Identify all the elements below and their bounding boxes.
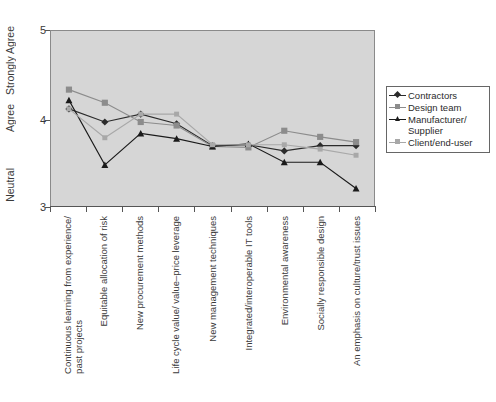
data-point-marker [138,119,144,125]
data-point-marker [281,128,287,134]
data-point-marker [102,100,108,106]
x-axis-category-label: An emphasis on culture/trust issues [352,216,363,366]
chart-container: Strongly Agree Agree Neutral 5 4 3 Contr… [0,0,496,402]
data-point-marker [281,147,288,154]
data-point-marker [318,147,323,152]
legend-label-manufacturer-line1: Manufacturer/ [408,114,467,125]
data-point-marker [101,118,108,125]
legend-label-client-end-user: Client/end-user [408,137,486,148]
x-axis-category-line1: New procurement methods [134,216,145,330]
legend-item-client-end-user: Client/end-user [389,137,486,148]
series-2 [66,87,359,151]
legend-item-contractors: Contractors [389,90,486,101]
legend-marker-cross-icon [389,137,406,148]
data-point-marker [354,153,359,158]
x-axis-category-line1: Environmental awareness [279,216,290,325]
data-point-marker [66,87,72,93]
x-axis-category-label: Life cycle value/ value–price leverage [171,216,182,374]
x-tick-mark [231,207,232,212]
x-tick-mark [267,207,268,212]
series-line [69,90,356,148]
x-axis-category-line1: New management techniques [207,216,218,342]
legend-marker-triangle-icon [389,114,406,125]
x-tick-mark [50,207,51,212]
plot-svg [51,31,374,206]
data-point-marker [174,122,180,128]
x-tick-mark [158,207,159,212]
y-axis-label-neutral: Neutral [4,168,16,202]
x-axis-category-line1: Life cycle value/ value–price leverage [170,216,181,374]
legend-marker-diamond-icon [389,90,406,101]
x-axis-category-line1: Continuous learning from experience/ [62,216,73,374]
data-point-marker [210,142,215,147]
series-4 [66,106,358,157]
data-point-marker [138,112,143,117]
legend-label-manufacturer-line2: Supplier [408,125,486,136]
x-axis-category-line2: past projects [74,216,85,374]
data-point-marker [66,106,71,111]
x-axis-category-label: Socially responsible design [316,216,327,331]
x-axis-category-line1: Equitable allocation of risk [98,216,109,326]
legend-item-manufacturer-supplier: Manufacturer/ Supplier [389,114,486,136]
x-tick-mark [339,207,340,212]
x-axis-category-line1: Integrated/interoperable IT tools [243,216,254,351]
y-tick-5: 5 [28,25,46,35]
legend-label-design-team: Design team [408,102,486,113]
x-tick-mark [303,207,304,212]
data-point-marker [102,135,107,140]
data-point-marker [246,142,251,147]
x-axis-category-label: Integrated/interoperable IT tools [244,216,255,351]
chart-legend: Contractors Design team Manufacturer/ Su… [386,86,490,153]
x-tick-mark [375,207,376,212]
data-point-marker [282,142,287,147]
legend-item-design-team: Design team [389,102,486,113]
x-axis-category-label: Environmental awareness [280,216,291,325]
x-tick-mark [122,207,123,212]
y-tick-4: 4 [28,115,46,125]
x-tick-mark [194,207,195,212]
x-axis-category-line1: An emphasis on culture/trust issues [351,216,362,366]
y-axis-label-strongly-agree: Strongly Agree [4,26,16,95]
legend-marker-square-icon [389,102,406,113]
plot-area [50,30,375,207]
x-axis-line [50,206,376,207]
data-point-marker [65,97,72,104]
data-point-marker [174,112,179,117]
data-point-marker [137,130,144,137]
x-tick-mark [86,207,87,212]
y-tick-3: 3 [28,202,46,212]
x-axis-category-label: Equitable allocation of risk [99,216,110,326]
legend-label-contractors: Contractors [408,90,486,101]
data-point-marker [317,134,323,140]
x-axis-category-label: New management techniques [208,216,219,342]
x-axis-category-label: New procurement methods [135,216,146,330]
x-axis-category-label: Continuous learning from experience/past… [63,216,84,374]
data-point-marker [353,185,360,192]
y-axis-label-agree: Agree [4,104,16,132]
data-point-marker [353,139,359,145]
x-axis-category-line1: Socially responsible design [315,216,326,331]
legend-label-manufacturer-supplier: Manufacturer/ Supplier [408,114,486,136]
